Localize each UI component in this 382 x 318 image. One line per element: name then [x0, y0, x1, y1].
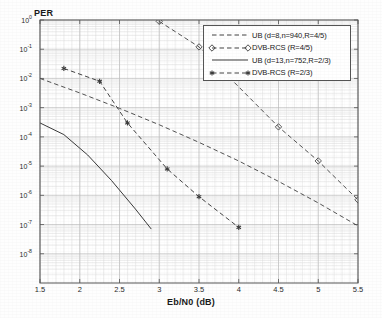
- y-tick-label: 10-4: [20, 133, 32, 140]
- legend-item: UB (d=13,n=752,R=2/3): [204, 54, 350, 67]
- legend-line-sample-1: [208, 42, 252, 54]
- legend-line-sample-2: [208, 54, 252, 66]
- y-tick-label: 10-3: [20, 104, 32, 111]
- y-tick-label: 100: [21, 17, 32, 24]
- per-vs-ebn0-chart: PER Eb/N0 (dB) 1.522.533.544.555.5 10010…: [0, 0, 382, 318]
- y-tick-label: 10-2: [20, 75, 32, 82]
- x-tick-label: 4: [237, 285, 241, 294]
- x-tick-label: 3.5: [194, 285, 204, 294]
- y-tick-label: 10-1: [20, 46, 32, 53]
- x-tick-label: 2: [78, 285, 82, 294]
- x-tick-label: 5: [316, 285, 320, 294]
- x-tick-label: 1.5: [35, 285, 45, 294]
- y-tick-label: 10-5: [20, 163, 32, 170]
- legend-label-0: UB (d=8,n=940,R=4/5): [252, 31, 327, 40]
- legend-label-1: DVB-RCS (R=4/5): [252, 43, 312, 52]
- legend-item: DVB-RCS (R=4/5): [204, 42, 350, 55]
- y-tick-label: 10-7: [20, 221, 32, 228]
- y-tick-label: 10-6: [20, 192, 32, 199]
- x-axis-label: Eb/N0 (dB): [0, 297, 382, 307]
- y-tick-labels: 10010-110-210-310-410-510-610-710-8: [6, 0, 32, 318]
- x-tick-label: 4.5: [273, 285, 283, 294]
- legend-line-sample-3: [208, 67, 252, 79]
- legend-label-3: DVB-RCS (R=2/3): [252, 68, 312, 77]
- y-axis-label: PER: [34, 8, 53, 18]
- chart-legend: UB (d=8,n=940,R=4/5) DVB-RCS (R=4/5) UB …: [203, 25, 351, 81]
- x-tick-label: 5.5: [353, 285, 363, 294]
- legend-line-sample-0: [208, 29, 252, 41]
- legend-item: UB (d=8,n=940,R=4/5): [204, 29, 350, 42]
- y-tick-label: 10-8: [20, 250, 32, 257]
- x-tick-label: 3: [157, 285, 161, 294]
- x-tick-label: 2.5: [114, 285, 124, 294]
- legend-label-2: UB (d=13,n=752,R=2/3): [252, 56, 331, 65]
- legend-item: DVB-RCS (R=2/3): [204, 67, 350, 80]
